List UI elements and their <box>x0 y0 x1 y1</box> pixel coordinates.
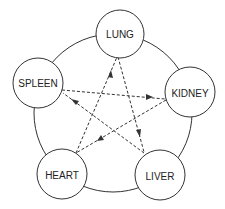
arrow-spleen-to-kidney <box>62 90 165 100</box>
liver-label: LIVER <box>146 171 175 182</box>
node-liver: LIVER <box>135 150 185 200</box>
arrowhead-icon <box>97 135 104 141</box>
node-kidney: KIDNEY <box>165 67 215 117</box>
arrow-heart-to-lung <box>76 57 117 153</box>
arrow-kidney-to-heart <box>76 100 166 153</box>
arrow-lung-to-liver <box>118 57 144 152</box>
node-spleen: SPLEEN <box>13 58 63 108</box>
organ-cycle-diagram: LUNG KIDNEY LIVER HEART SPLEEN <box>0 0 225 209</box>
arrow-liver-to-spleen <box>63 93 144 153</box>
kidney-label: KIDNEY <box>171 88 209 99</box>
arrowhead-icon <box>146 94 153 100</box>
heart-label: HEART <box>45 170 79 181</box>
node-heart: HEART <box>37 149 87 199</box>
node-lung: LUNG <box>96 10 144 58</box>
lung-label: LUNG <box>106 29 134 40</box>
arrowhead-icon <box>136 129 141 137</box>
arrowhead-icon <box>108 70 113 78</box>
spleen-label: SPLEEN <box>18 78 57 89</box>
